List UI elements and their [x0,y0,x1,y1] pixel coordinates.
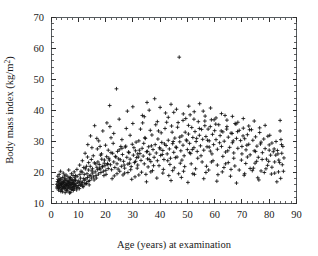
y-axis-title: Body mass index (kg/m2) [3,56,17,164]
data-point-marker [86,155,90,159]
data-point-marker [143,137,147,141]
data-point-marker [203,114,207,118]
data-point-marker [107,158,111,162]
data-point-marker [232,156,236,160]
data-point-marker [127,150,131,154]
data-point-marker [165,120,169,124]
data-point-marker [270,165,274,169]
data-point-marker [221,154,225,158]
data-point-marker [166,138,170,142]
data-point-marker [273,171,277,175]
data-point-marker [115,172,119,176]
data-point-marker [237,168,241,172]
data-point-marker [124,127,128,131]
data-point-marker [136,152,140,156]
data-point-marker [179,149,183,153]
data-point-marker [241,117,245,121]
data-point-marker [147,108,151,112]
data-point-marker [67,168,71,172]
data-point-marker [184,117,188,121]
data-point-marker [193,130,197,134]
data-point-marker [126,171,130,175]
data-point-marker [114,155,118,159]
data-point-marker [176,125,180,129]
data-point-marker [234,122,238,126]
x-tick-label: 70 [237,209,248,220]
data-point-marker [278,129,282,133]
data-point-marker [159,131,163,135]
data-point-marker [144,172,148,176]
data-point-marker [88,164,92,168]
y-tick-label: 70 [34,12,45,23]
data-point-marker [265,157,269,161]
data-point-marker [98,145,102,149]
data-point-marker [146,165,150,169]
data-point-marker [92,178,96,182]
data-point-marker [127,151,131,155]
data-point-marker [187,104,191,108]
data-point-marker [162,158,166,162]
data-point-marker [166,115,170,119]
data-point-marker [113,166,117,170]
data-point-marker [157,129,161,133]
data-point-marker [218,134,222,138]
data-point-marker [108,125,112,129]
data-point-marker [148,128,152,132]
data-point-marker [106,167,110,171]
data-point-marker [236,146,240,150]
data-point-marker [142,162,146,166]
data-point-marker [225,127,229,131]
data-point-marker [110,168,114,172]
data-point-marker [86,143,90,147]
data-point-marker [231,139,235,143]
data-point-marker [269,153,273,157]
data-point-marker [197,133,201,137]
data-point-marker [220,112,224,116]
data-point-marker [137,173,141,177]
data-point-marker [171,142,175,146]
data-point-marker [87,161,91,165]
data-point-marker [195,137,199,141]
data-point-marker [111,141,115,145]
data-point-marker [171,140,175,144]
data-point-marker [120,138,124,142]
data-point-marker [244,162,248,166]
data-point-marker [188,141,192,145]
data-point-marker [264,167,268,171]
data-point-marker [214,116,218,120]
data-point-marker [190,126,194,130]
data-point-marker [104,143,108,147]
data-point-marker [263,123,267,127]
data-point-marker [95,137,99,141]
data-point-marker [223,114,227,118]
data-point-marker [112,132,116,136]
data-point-marker [196,120,200,124]
data-point-marker [91,167,95,171]
data-point-marker [209,106,213,110]
data-point-marker [163,127,167,131]
data-point-marker [139,159,143,163]
data-point-marker [108,104,112,108]
data-point-marker [129,165,133,169]
data-point-marker [198,102,202,106]
data-point-marker [129,168,133,172]
data-point-marker [181,112,185,116]
data-point-marker [173,136,177,140]
data-point-marker [83,151,87,155]
data-point-marker [187,132,191,136]
data-point-marker [204,171,208,175]
data-point-marker [166,159,170,163]
bmi-vs-age-scatter-figure: 010203040506070809010203040506070 Age (y… [0,0,318,256]
data-point-marker [278,161,282,165]
data-point-marker [72,170,76,174]
x-tick-label: 20 [100,209,111,220]
data-point-marker [276,149,280,153]
data-point-marker [90,169,94,173]
data-point-marker [97,139,101,143]
data-point-marker [280,151,284,155]
scatter-plot-svg: 010203040506070809010203040506070 Age (y… [0,0,318,256]
data-point-marker [106,148,110,152]
data-point-marker [148,152,152,156]
data-point-marker [177,172,181,176]
data-point-marker [181,143,185,147]
